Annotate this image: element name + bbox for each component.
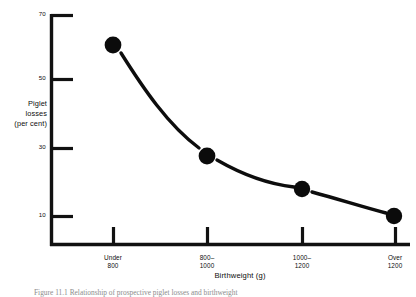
- data-point-1000-1200: [294, 181, 310, 197]
- y-axis-title-line-1: Piglet: [3, 99, 47, 109]
- figure-caption: Figure 11.1 Relationship of prospective …: [34, 288, 406, 297]
- data-curve-segment-3: [312, 192, 386, 213]
- x-tick-label-over-1200-line-2: 1200: [365, 262, 416, 270]
- y-tick-label-50: 50: [20, 74, 46, 81]
- figure-container: 70 50 30 10 Piglet losses (per cent) Und…: [0, 0, 416, 297]
- x-tick-label-1000-1200-line-1: 1000–: [272, 254, 332, 262]
- data-point-over-1200: [386, 208, 402, 224]
- x-tick-label-800-1000-line-2: 1000: [177, 262, 237, 270]
- y-tick-label-10: 10: [20, 211, 46, 218]
- y-tick-label-70: 70: [20, 10, 46, 17]
- x-tick-label-under-800-line-2: 800: [83, 262, 143, 270]
- x-tick-label-1000-1200-line-2: 1200: [272, 262, 332, 270]
- x-tick-label-800-1000-line-1: 800–: [177, 254, 237, 262]
- data-point-800-1000: [199, 148, 216, 165]
- y-tick-label-30: 30: [20, 143, 46, 150]
- x-tick-label-over-1200-line-1: Over: [365, 254, 416, 262]
- y-axis-title-line-3: (per cent): [3, 119, 47, 129]
- x-tick-label-under-800-line-1: Under: [83, 254, 143, 262]
- data-curve-segment-2: [217, 160, 294, 187]
- x-axis-title: Birthweight (g): [160, 272, 320, 281]
- chart-plot-area: [0, 0, 416, 297]
- data-curve-segment-1: [121, 53, 199, 148]
- data-point-under-800: [105, 37, 122, 54]
- y-axis-title-line-2: losses: [3, 109, 47, 119]
